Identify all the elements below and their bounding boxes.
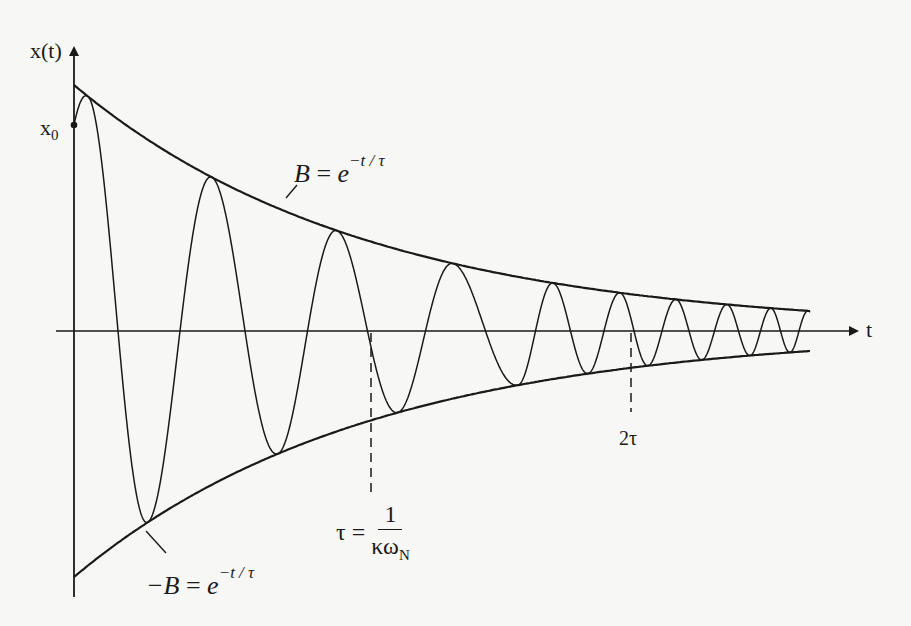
y-axis-label: x(t) — [30, 40, 62, 62]
oscillation-curve — [74, 96, 810, 523]
tau-fraction: 1 κωN — [371, 502, 410, 563]
initial-value-subscript: 0 — [51, 127, 59, 143]
two-tau-label: 2τ — [619, 428, 637, 448]
initial-value-label: x0 — [40, 117, 59, 143]
lower-envelope-base: e — [207, 571, 219, 600]
initial-value-symbol: x — [40, 115, 51, 140]
lower-envelope-curve — [74, 351, 810, 577]
x-axis-label: t — [866, 319, 872, 341]
upper-envelope-lhs: B — [294, 159, 310, 188]
upper-envelope-base: e — [338, 159, 350, 188]
lower-envelope-lhs: −B — [146, 571, 179, 600]
tau-denominator-symbols: κω — [371, 533, 399, 559]
upper-envelope-exponent: −t / τ — [349, 151, 385, 170]
upper-envelope-label: B = e−t / τ — [294, 158, 385, 187]
tau-denominator: κωN — [371, 530, 410, 563]
tau-denominator-subscript: N — [399, 547, 410, 563]
lower-envelope-exponent: −t / τ — [219, 563, 255, 582]
tau-eq: = — [352, 519, 366, 545]
lower-envelope-leader — [146, 531, 166, 553]
tau-symbol: τ — [336, 519, 346, 545]
upper-envelope-eq: = — [316, 159, 331, 188]
lower-envelope-eq: = — [186, 571, 201, 600]
tau-numerator: 1 — [378, 502, 402, 530]
lower-envelope-label: −B = e−t / τ — [146, 570, 254, 599]
damped-oscillation-plot — [0, 0, 911, 626]
tau-definition-label: τ = 1 κωN — [336, 502, 410, 563]
upper-envelope-curve — [74, 85, 810, 311]
initial-value-dot — [71, 122, 78, 129]
